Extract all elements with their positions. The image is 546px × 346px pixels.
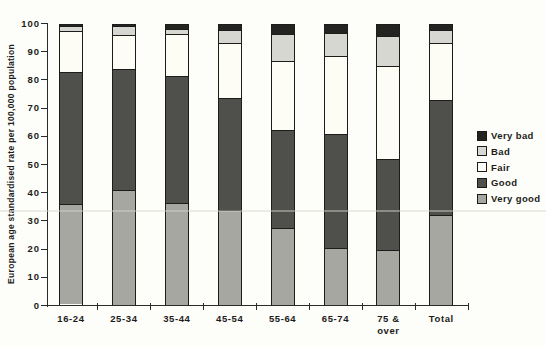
segment-very-good	[60, 204, 82, 304]
x-tick	[203, 303, 204, 310]
y-tick-label: 20	[12, 244, 40, 254]
x-tick	[415, 303, 416, 310]
legend-label: Fair	[491, 162, 510, 173]
y-tick	[41, 277, 47, 278]
legend-label: Bad	[491, 146, 510, 157]
x-category-label: Total	[409, 313, 473, 325]
legend-item-fair: Fair	[477, 161, 510, 174]
y-tick-label: 40	[12, 188, 40, 198]
y-tick-label: 60	[12, 131, 40, 141]
legend-label: Good	[491, 177, 517, 188]
segment-bad	[377, 36, 399, 66]
segment-fair	[272, 61, 294, 130]
stacked-bar-chart: European age standardised rate per 100,0…	[0, 0, 546, 346]
y-tick-label: 70	[12, 103, 40, 113]
segment-bad	[272, 34, 294, 61]
segment-good	[219, 98, 241, 209]
y-tick	[41, 164, 47, 165]
bar-75&over	[376, 24, 400, 306]
segment-very-bad	[377, 25, 399, 36]
x-category-label-line: over	[356, 325, 420, 337]
legend-label: Very bad	[491, 130, 534, 141]
bar-35-44	[165, 24, 189, 306]
legend-swatch	[477, 131, 487, 141]
y-tick	[41, 108, 47, 109]
legend-swatch	[477, 146, 487, 156]
segment-good	[272, 130, 294, 228]
x-tick	[256, 303, 257, 310]
segment-fair	[166, 34, 188, 76]
segment-fair	[113, 35, 135, 69]
segment-very-good	[430, 215, 452, 304]
segment-very-bad	[325, 25, 347, 33]
y-tick	[41, 136, 47, 137]
legend-swatch	[477, 162, 487, 172]
segment-bad	[430, 30, 452, 43]
legend-item-good: Good	[477, 176, 517, 189]
bar-45-54	[218, 24, 242, 306]
segment-fair	[430, 43, 452, 99]
x-tick	[150, 303, 151, 310]
x-tick	[468, 303, 469, 310]
segment-good	[166, 76, 188, 203]
segment-very-good	[377, 250, 399, 305]
y-tick	[41, 249, 47, 250]
bar-25-34	[112, 24, 136, 306]
legend-swatch	[477, 194, 487, 204]
legend-item-very-good: Very good	[477, 192, 541, 205]
segment-bad	[325, 33, 347, 56]
segment-fair	[325, 56, 347, 134]
y-tick-label: 50	[12, 160, 40, 170]
x-axis-line	[47, 305, 469, 306]
x-category-label-line: Total	[409, 313, 473, 325]
y-tick	[41, 192, 47, 193]
x-tick	[97, 303, 98, 310]
segment-very-good	[325, 248, 347, 304]
legend-item-bad: Bad	[477, 145, 510, 158]
segment-good	[430, 100, 452, 216]
segment-fair	[377, 66, 399, 159]
y-tick	[41, 79, 47, 80]
y-axis-line	[47, 23, 48, 307]
bar-55-64	[271, 24, 295, 306]
x-tick	[309, 303, 310, 310]
segment-bad	[219, 30, 241, 43]
y-tick	[41, 51, 47, 52]
bar-16-24	[59, 24, 83, 306]
segment-good	[60, 72, 82, 204]
segment-good	[113, 69, 135, 190]
segment-very-good	[113, 190, 135, 304]
x-tick	[362, 303, 363, 310]
bar-65-74	[324, 24, 348, 306]
segment-very-good	[272, 228, 294, 305]
segment-fair	[60, 31, 82, 72]
y-tick	[41, 220, 47, 221]
bar-Total	[429, 24, 453, 306]
segment-very-good	[219, 210, 241, 305]
legend-label: Very good	[491, 193, 541, 204]
y-tick	[41, 23, 47, 24]
segment-good	[325, 134, 347, 248]
y-tick-label: 90	[12, 47, 40, 57]
legend-swatch	[477, 178, 487, 188]
y-tick-label: 30	[12, 216, 40, 226]
segment-fair	[219, 43, 241, 98]
segment-bad	[113, 26, 135, 35]
segment-very-good	[166, 203, 188, 305]
segment-very-bad	[272, 25, 294, 35]
y-tick-label: 80	[12, 75, 40, 85]
y-tick-label: 10	[12, 272, 40, 282]
legend-item-very-bad: Very bad	[477, 129, 534, 142]
segment-good	[377, 159, 399, 250]
y-tick-label: 100	[12, 19, 40, 29]
y-tick-label: 0	[12, 301, 40, 311]
